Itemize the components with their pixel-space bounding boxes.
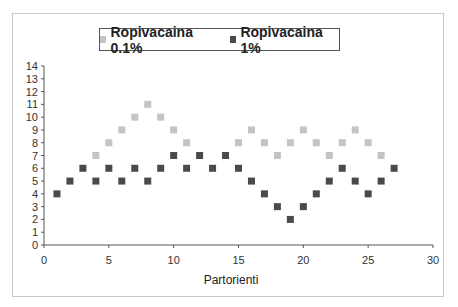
axes: 01234567891011121314051015202530 bbox=[26, 60, 439, 266]
data-point-marker bbox=[105, 139, 112, 146]
data-point-marker bbox=[274, 152, 281, 159]
data-point-marker bbox=[170, 126, 177, 133]
y-tick-label: 3 bbox=[32, 201, 38, 213]
data-point-marker bbox=[339, 139, 346, 146]
data-point-marker bbox=[287, 216, 294, 223]
data-point-marker bbox=[287, 139, 294, 146]
y-tick-label: 14 bbox=[26, 60, 38, 72]
data-point-marker bbox=[378, 178, 385, 185]
data-point-marker bbox=[144, 178, 151, 185]
data-point-marker bbox=[131, 114, 138, 121]
data-point-marker bbox=[261, 139, 268, 146]
data-point-marker bbox=[326, 178, 333, 185]
data-point-marker bbox=[365, 139, 372, 146]
series-0 bbox=[92, 101, 384, 159]
y-tick-label: 10 bbox=[26, 111, 38, 123]
x-axis-label: Partorienti bbox=[204, 273, 259, 287]
y-tick-label: 9 bbox=[32, 124, 38, 136]
data-point-marker bbox=[131, 165, 138, 172]
data-point-marker bbox=[248, 126, 255, 133]
data-point-marker bbox=[248, 178, 255, 185]
data-point-marker bbox=[235, 139, 242, 146]
data-point-marker bbox=[313, 139, 320, 146]
x-tick-label: 5 bbox=[106, 254, 112, 266]
y-tick-label: 5 bbox=[32, 175, 38, 187]
data-point-marker bbox=[222, 152, 229, 159]
data-points bbox=[53, 101, 397, 223]
data-point-marker bbox=[365, 190, 372, 197]
data-point-marker bbox=[352, 126, 359, 133]
y-tick-label: 8 bbox=[32, 137, 38, 149]
x-tick-label: 25 bbox=[362, 254, 374, 266]
data-point-marker bbox=[300, 126, 307, 133]
data-point-marker bbox=[300, 203, 307, 210]
data-point-marker bbox=[339, 165, 346, 172]
data-point-marker bbox=[313, 190, 320, 197]
x-tick-label: 10 bbox=[168, 254, 180, 266]
y-tick-label: 11 bbox=[27, 98, 38, 110]
data-point-marker bbox=[183, 139, 190, 146]
data-point-marker bbox=[352, 178, 359, 185]
y-tick-label: 1 bbox=[32, 226, 38, 238]
data-point-marker bbox=[79, 165, 86, 172]
data-point-marker bbox=[157, 114, 164, 121]
x-tick-label: 15 bbox=[232, 254, 244, 266]
data-point-marker bbox=[118, 126, 125, 133]
y-tick-label: 12 bbox=[26, 86, 38, 98]
series-1 bbox=[53, 152, 397, 223]
data-point-marker bbox=[378, 152, 385, 159]
data-point-marker bbox=[274, 203, 281, 210]
data-point-marker bbox=[92, 178, 99, 185]
scatter-plot: 01234567891011121314051015202530 Partori… bbox=[0, 0, 458, 307]
data-point-marker bbox=[196, 152, 203, 159]
data-point-marker bbox=[53, 190, 60, 197]
y-tick-label: 7 bbox=[32, 150, 38, 162]
y-tick-label: 6 bbox=[32, 162, 38, 174]
data-point-marker bbox=[235, 165, 242, 172]
data-point-marker bbox=[92, 152, 99, 159]
data-point-marker bbox=[66, 178, 73, 185]
y-tick-label: 0 bbox=[32, 239, 38, 251]
data-point-marker bbox=[170, 152, 177, 159]
data-point-marker bbox=[157, 165, 164, 172]
data-point-marker bbox=[144, 101, 151, 108]
data-point-marker bbox=[326, 152, 333, 159]
y-tick-label: 2 bbox=[32, 213, 38, 225]
x-tick-label: 30 bbox=[427, 254, 439, 266]
x-tick-label: 20 bbox=[297, 254, 309, 266]
y-tick-label: 4 bbox=[32, 188, 38, 200]
data-point-marker bbox=[209, 165, 216, 172]
data-point-marker bbox=[118, 178, 125, 185]
data-point-marker bbox=[105, 165, 112, 172]
x-tick-label: 0 bbox=[41, 254, 47, 266]
data-point-marker bbox=[261, 190, 268, 197]
data-point-marker bbox=[391, 165, 398, 172]
data-point-marker bbox=[183, 165, 190, 172]
y-tick-label: 13 bbox=[26, 73, 38, 85]
